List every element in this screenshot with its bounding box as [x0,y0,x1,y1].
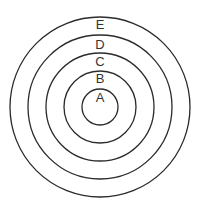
label-a: A [96,90,105,105]
label-d: D [95,37,104,52]
concentric-circles-diagram: E D C B A [0,0,198,210]
label-e: E [96,17,105,32]
label-c: C [95,54,104,69]
label-b: B [96,71,105,86]
